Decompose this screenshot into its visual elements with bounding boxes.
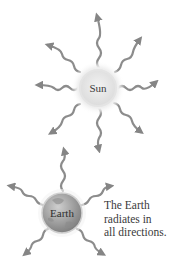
sun-label: Sun <box>89 82 107 94</box>
arrow-up-right-icon <box>115 39 140 72</box>
arrow-down-right-icon <box>114 103 141 132</box>
arrow-up-left-icon <box>48 45 80 72</box>
arrow-down-right-icon <box>77 229 103 254</box>
arrow-up-icon <box>61 150 65 191</box>
earth-label: Earth <box>50 207 74 219</box>
caption: The Earth radiates in all directions. <box>104 199 176 240</box>
caption-line-2: radiates in <box>104 213 176 227</box>
arrow-down-left-icon <box>25 229 48 254</box>
arrow-up-left-icon <box>10 186 43 205</box>
arrow-up-icon <box>97 16 101 68</box>
arrow-down-left-icon <box>51 104 80 133</box>
earth: Earth <box>38 189 86 237</box>
caption-line-3: all directions. <box>104 226 176 240</box>
caption-line-1: The Earth <box>104 199 176 213</box>
sun: Sun <box>71 61 125 115</box>
